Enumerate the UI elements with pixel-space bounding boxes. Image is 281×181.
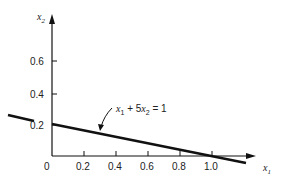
x-tick-0.8: 0.8 bbox=[172, 161, 186, 172]
equation-label: x1 + 5x2 = 1 bbox=[115, 103, 167, 116]
plot-canvas: 0.2 0.4 0.6 0 0.2 0.4 0.6 0.8 1.0 x2 x1 … bbox=[0, 0, 281, 181]
y-axis-arrow-icon bbox=[49, 14, 55, 24]
y-tick-0.4: 0.4 bbox=[30, 89, 44, 100]
equation-pointer-arrow bbox=[98, 108, 112, 131]
y-axis bbox=[49, 14, 57, 156]
y-axis-label: x2 bbox=[36, 11, 45, 25]
y-tick-0.6: 0.6 bbox=[30, 56, 44, 67]
x-tick-1.0: 1.0 bbox=[204, 161, 218, 172]
x-tick-0.4: 0.4 bbox=[108, 161, 122, 172]
x-tick-0.6: 0.6 bbox=[140, 161, 154, 172]
x-tick-0.2: 0.2 bbox=[76, 161, 90, 172]
pointer-arrowhead-icon bbox=[98, 124, 104, 131]
x-axis-arrow-icon bbox=[246, 153, 256, 159]
origin-label: 0 bbox=[44, 161, 50, 172]
x-axis-label: x1 bbox=[262, 162, 271, 176]
y-tick-0.2: 0.2 bbox=[30, 120, 44, 131]
